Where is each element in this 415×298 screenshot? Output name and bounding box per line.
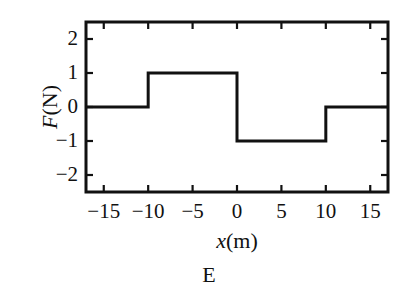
y-axis-label-variable: F [37,116,62,129]
x-axis-label: x(m) [177,230,297,252]
y-tick-label: 2 [38,28,78,49]
y-axis-label: F(N) [39,62,61,152]
step-function-line [86,73,388,141]
figure-container: −2−1012 −15−10−5051015 F(N) x(m) E [0,0,415,298]
x-tick-label: 15 [342,201,398,222]
x-axis-label-variable: x [216,228,226,253]
y-axis-label-units: (N) [37,85,62,116]
figure-caption: E [169,264,249,286]
data-series-step [86,73,388,141]
x-axis-label-units: (m) [226,228,258,253]
y-tick-label: −2 [38,164,78,185]
